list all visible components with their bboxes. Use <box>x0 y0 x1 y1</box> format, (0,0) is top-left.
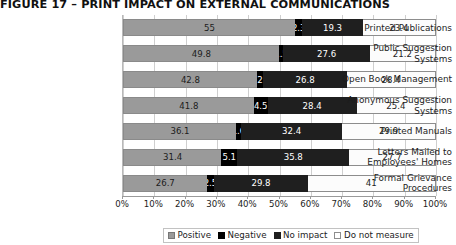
bar-segment-value: 2.3 <box>295 23 302 33</box>
y-axis-label-line: Procedures <box>338 183 452 194</box>
bar-segment-noimpact[interactable]: 32.4 <box>241 123 342 140</box>
x-axis-tick-label: 20% <box>168 199 202 209</box>
y-axis-label: Printed Publications <box>338 23 456 34</box>
bar-segment-positive[interactable]: 36.1 <box>123 123 236 140</box>
x-axis-tick-label: 70% <box>324 199 358 209</box>
bar-segment-value: 32.4 <box>282 126 301 136</box>
y-axis-label: Letters Mailed toEmployees' Homes <box>338 147 456 168</box>
x-axis-tick-mark <box>247 196 248 199</box>
chart-legend: Positive Negative No impact Do not measu… <box>163 228 419 243</box>
bar-segment-value: 27.6 <box>317 49 336 59</box>
bar-segment-value: 42.8 <box>181 75 200 85</box>
x-axis-tick-mark <box>279 196 280 199</box>
y-axis-label: Anonymous SuggestionSystems <box>338 95 456 116</box>
x-axis-tick-label: 100% <box>418 199 452 209</box>
y-axis-label: Formal GrievanceProcedures <box>338 173 456 194</box>
x-axis-tick-label: 0% <box>105 199 139 209</box>
x-axis-tick-label: 50% <box>262 199 296 209</box>
x-axis-tick-mark <box>153 196 154 199</box>
y-axis-label-line: Public Suggestion <box>338 43 452 54</box>
bar-segment-negative[interactable]: 2.5 <box>207 175 215 192</box>
x-axis-tick-label: 30% <box>199 199 233 209</box>
bar-segment-positive[interactable]: 31.4 <box>123 149 221 166</box>
bar-segment-negative[interactable]: 5.1 <box>221 149 237 166</box>
y-axis-label-line: Systems <box>338 54 452 65</box>
y-axis-label-line: Open Book Management <box>338 74 452 85</box>
legend-item-positive[interactable]: Positive <box>168 230 211 240</box>
legend-label-no-impact: No impact <box>283 230 327 240</box>
x-axis-tick-mark <box>435 196 436 199</box>
y-axis-label-line: Printed Publications <box>338 23 452 34</box>
bar-segment-positive[interactable]: 41.8 <box>123 97 254 114</box>
x-axis-tick-mark <box>185 196 186 199</box>
y-axis-label: Open Book Management <box>338 74 456 85</box>
bar-segment-value: 41.8 <box>179 101 198 111</box>
x-axis-tick-mark <box>404 196 405 199</box>
bar-segment-noimpact[interactable]: 35.8 <box>237 149 349 166</box>
bar-segment-positive[interactable]: 26.7 <box>123 175 207 192</box>
bar-segment-noimpact[interactable]: 26.8 <box>263 71 347 88</box>
legend-item-no-impact[interactable]: No impact <box>274 230 328 240</box>
bar-segment-negative[interactable]: 4.5 <box>254 97 268 114</box>
legend-label-do-not-measure: Do not measure <box>344 230 414 240</box>
legend-swatch-no-impact-icon <box>274 232 281 239</box>
bar-segment-value: 31.4 <box>163 152 182 162</box>
y-axis-label-line: Employees' Homes <box>338 157 452 168</box>
bar-segment-value: 4.5 <box>254 101 268 111</box>
bar-segment-value: 2 <box>257 75 262 85</box>
bar-segment-value: 26.8 <box>296 75 315 85</box>
bar-segment-value: 5.1 <box>222 152 236 162</box>
x-axis-tick-label: 90% <box>387 199 421 209</box>
bar-segment-positive[interactable]: 49.8 <box>123 45 279 62</box>
y-axis-label-line: Letters Mailed to <box>338 147 452 158</box>
y-axis-label-line: Printed Manuals <box>338 126 452 137</box>
bar-segment-negative[interactable]: 2.3 <box>295 19 302 36</box>
x-axis-tick-mark <box>216 196 217 199</box>
legend-swatch-positive-icon <box>168 232 175 239</box>
y-axis-label: Printed Manuals <box>338 126 456 137</box>
legend-swatch-negative-icon <box>218 232 225 239</box>
bar-segment-value: 49.8 <box>192 49 211 59</box>
legend-label-negative: Negative <box>228 230 267 240</box>
bar-segment-value: 35.8 <box>284 152 303 162</box>
bar-segment-value: 28.4 <box>303 101 322 111</box>
bar-segment-value: 26.7 <box>156 178 175 188</box>
x-axis-tick-label: 10% <box>136 199 170 209</box>
legend-item-negative[interactable]: Negative <box>218 230 267 240</box>
x-axis-tick-mark <box>372 196 373 199</box>
bar-segment-value: 29.8 <box>251 178 270 188</box>
x-axis-tick-mark <box>122 196 123 199</box>
bar-segment-value: 36.1 <box>170 126 189 136</box>
bar-segment-value: 55 <box>204 23 215 33</box>
bar-segment-noimpact[interactable]: 29.8 <box>214 175 307 192</box>
bar-segment-positive[interactable]: 42.8 <box>123 71 257 88</box>
legend-label-positive: Positive <box>178 230 212 240</box>
x-axis-tick-label: 40% <box>230 199 264 209</box>
legend-swatch-do-not-measure-icon <box>334 232 341 239</box>
x-axis-tick-mark <box>341 196 342 199</box>
bar-segment-value: 2.5 <box>207 178 215 188</box>
legend-item-do-not-measure[interactable]: Do not measure <box>334 230 413 240</box>
y-axis-label-line: Systems <box>338 106 452 117</box>
y-axis-label-line: Formal Grievance <box>338 173 452 184</box>
bar-segment-positive[interactable]: 55 <box>123 19 295 36</box>
y-axis-label-line: Anonymous Suggestion <box>338 95 452 106</box>
x-axis-tick-label: 60% <box>293 199 327 209</box>
x-axis-tick-mark <box>310 196 311 199</box>
chart-figure: FIGURE 17 – PRINT IMPACT ON EXTERNAL COM… <box>0 0 456 245</box>
chart-title: FIGURE 17 – PRINT IMPACT ON EXTERNAL COM… <box>0 0 456 12</box>
x-axis-tick-label: 80% <box>355 199 389 209</box>
y-axis-label: Public SuggestionSystems <box>338 43 456 64</box>
